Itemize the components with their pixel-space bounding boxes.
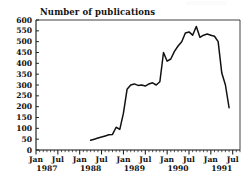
y-tick-label: 200 (16, 102, 32, 111)
x-tick-label: Jan (203, 155, 219, 164)
x-tick-label: Jan (115, 155, 131, 164)
y-tick-label: 450 (16, 48, 32, 57)
x-axis-tick-labels: JanJulJanJulJanJulJanJulJanJul (28, 155, 239, 164)
x-axis-ticks (36, 150, 240, 155)
x-axis-year-labels: 19871988198919901991 (36, 164, 232, 173)
x-year-label: 1987 (36, 164, 57, 173)
y-tick-label: 50 (21, 135, 32, 144)
y-tick-label: 300 (16, 81, 32, 90)
x-tick-label: Jan (159, 155, 175, 164)
x-year-label: 1989 (124, 164, 145, 173)
plot-area: 050100150200250300350400450500550600 Jan… (0, 0, 252, 179)
y-tick-label: 400 (16, 59, 32, 68)
x-tick-label: Jul (138, 155, 151, 164)
y-tick-label: 550 (16, 26, 32, 35)
x-tick-label: Jan (28, 155, 44, 164)
x-year-label: 1991 (211, 164, 232, 173)
x-year-label: 1990 (168, 164, 189, 173)
y-tick-label: 150 (16, 113, 32, 122)
x-tick-label: Jul (182, 155, 195, 164)
y-tick-label: 100 (16, 124, 32, 133)
publications-line-chart-figure: Number of publications 05010015020025030… (0, 0, 252, 179)
x-tick-label: Jan (72, 155, 88, 164)
y-axis-tick-labels: 050100150200250300350400450500550600 (16, 16, 32, 155)
y-tick-label: 600 (16, 16, 32, 25)
y-tick-label: 500 (16, 37, 32, 46)
x-tick-label: Jul (95, 155, 108, 164)
y-tick-label: 0 (27, 146, 32, 155)
publications-data-series (91, 27, 229, 141)
y-tick-label: 350 (16, 70, 32, 79)
x-year-label: 1988 (80, 164, 101, 173)
x-tick-label: Jul (51, 155, 64, 164)
x-tick-label: Jul (226, 155, 239, 164)
y-tick-label: 250 (16, 91, 32, 100)
